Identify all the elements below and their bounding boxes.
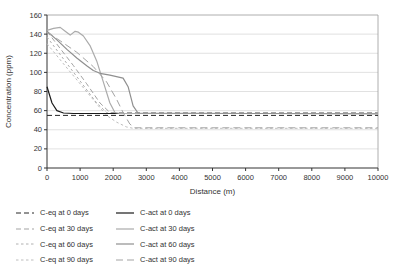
y-tick-label: 60 (34, 106, 42, 115)
legend-item-label: C-act at 30 days (140, 224, 195, 233)
x-tick-label: 4000 (171, 173, 188, 182)
x-tick-label: 10000 (368, 173, 389, 182)
y-tick-label: 100 (29, 68, 42, 77)
legend-column-act: C-act at 0 daysC-act at 30 daysC-act at … (116, 205, 195, 268)
x-axis-title: Distance (m) (47, 187, 378, 196)
chart-container: 0204060801001201401600100020003000400050… (0, 0, 407, 275)
legend-item-label: C-eq at 0 days (40, 208, 89, 217)
y-tick-label: 120 (29, 49, 42, 58)
legend-line-sample (116, 226, 134, 232)
legend-item: C-eq at 30 days (16, 221, 93, 237)
legend-line-sample (16, 226, 34, 232)
x-tick-label: 5000 (204, 173, 221, 182)
legend-item-label: C-eq at 90 days (40, 255, 93, 264)
y-tick-label: 160 (29, 11, 42, 20)
x-tick-label: 1000 (72, 173, 89, 182)
y-tick-label: 140 (29, 30, 42, 39)
series-line-c-act-at-30-days (47, 27, 378, 113)
series-line-c-act-at-0-days (47, 87, 378, 114)
legend-item-label: C-act at 60 days (140, 240, 195, 249)
x-tick-label: 6000 (237, 173, 254, 182)
legend-line-sample (16, 257, 34, 263)
legend-item-label: C-act at 90 days (140, 255, 195, 264)
legend-item: C-act at 90 days (116, 252, 195, 268)
legend-item: C-act at 30 days (116, 221, 195, 237)
legend-item: C-act at 0 days (116, 205, 195, 221)
legend-line-sample (116, 210, 134, 216)
legend-item-label: C-act at 0 days (140, 208, 190, 217)
legend-item-label: C-eq at 60 days (40, 240, 93, 249)
legend-item-label: C-eq at 30 days (40, 224, 93, 233)
legend-item: C-eq at 0 days (16, 205, 93, 221)
y-tick-label: 80 (34, 87, 42, 96)
x-tick-label: 9000 (337, 173, 354, 182)
legend-item: C-act at 60 days (116, 236, 195, 252)
legend-item: C-eq at 90 days (16, 252, 93, 268)
x-tick-label: 2000 (105, 173, 122, 182)
x-tick-label: 0 (45, 173, 49, 182)
y-tick-label: 20 (34, 144, 42, 153)
y-tick-label: 40 (34, 125, 42, 134)
y-axis-title: Concentration (ppm) (4, 27, 13, 157)
legend-line-sample (116, 241, 134, 247)
x-tick-label: 7000 (270, 173, 287, 182)
legend-line-sample (116, 257, 134, 263)
legend-line-sample (16, 210, 34, 216)
legend-column-eq: C-eq at 0 daysC-eq at 30 daysC-eq at 60 … (16, 205, 93, 268)
y-tick-label: 0 (38, 164, 42, 173)
x-tick-label: 8000 (303, 173, 320, 182)
legend-item: C-eq at 60 days (16, 236, 93, 252)
series-line-c-eq-at-60-days (47, 37, 378, 114)
legend-line-sample (16, 241, 34, 247)
x-tick-label: 3000 (138, 173, 155, 182)
